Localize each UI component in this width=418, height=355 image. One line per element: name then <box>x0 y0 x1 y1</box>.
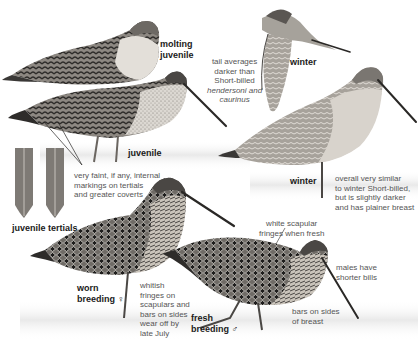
annotation-line: overall very similar <box>335 174 414 184</box>
annotation-line: fringes when fresh <box>259 229 324 239</box>
juvenile-tertials-feathers <box>15 148 64 218</box>
label-juvenile: juvenile <box>128 148 162 159</box>
molting-juvenile-bird <box>2 21 159 85</box>
annotation-line: hendersoni and <box>207 86 262 96</box>
annotation-tertials: very faint, if any, internal markings on… <box>74 171 160 200</box>
annotation-line: and has plainer breast <box>335 203 414 213</box>
annotation-line: to winter Short-billed, <box>335 184 414 194</box>
annotation-worn: whitish fringes on scapulars and bars on… <box>140 281 190 338</box>
annotation-line: whitish <box>140 281 190 291</box>
annotation-line: very faint, if any, internal <box>74 171 160 181</box>
annotation-line: and greater coverts <box>74 190 160 200</box>
label-line: breeding <box>77 294 115 304</box>
annotation-line: Short-billed <box>207 76 262 86</box>
label-line: fresh <box>191 313 238 324</box>
annotation-scapular: white scapular fringes when fresh <box>259 219 324 238</box>
label-line: breeding <box>191 324 229 334</box>
label-line: molting <box>160 39 194 50</box>
annotation-line: of breast <box>292 317 340 327</box>
annotation-line: fringes on <box>140 291 190 301</box>
label-fresh-breeding-male: fresh breeding ♂ <box>191 313 238 335</box>
annotation-males: males have shorter bills <box>336 263 377 282</box>
annotation-line: males have <box>336 263 377 273</box>
annotation-line: scapulars and <box>140 300 190 310</box>
label-winter-flight: winter <box>290 57 317 68</box>
annotation-line: white scapular <box>259 219 324 229</box>
annotation-line: shorter bills <box>336 273 377 283</box>
label-molting-juvenile: molting juvenile <box>160 39 194 61</box>
annotation-line: markings on tertials <box>74 181 160 191</box>
annotation-line: late July <box>140 329 190 339</box>
label-line: worn <box>77 283 124 294</box>
annotation-winter: overall very similar to winter Short-bil… <box>335 174 414 212</box>
annotation-line: tail averages <box>207 57 262 67</box>
annotation-line: but is slightly darker <box>335 193 414 203</box>
annotation-bars: bars on sides of breast <box>292 307 340 326</box>
annotation-line: bars on sides <box>292 307 340 317</box>
annotation-line: wear off by <box>140 319 190 329</box>
male-symbol-icon: ♂ <box>232 324 239 334</box>
annotation-line: caurinus <box>207 95 262 105</box>
label-winter-standing: winter <box>290 176 317 187</box>
label-line: juvenile <box>160 50 194 61</box>
annotation-line: bars on sides <box>140 310 190 320</box>
label-juvenile-tertials: juvenile tertials <box>12 223 78 234</box>
female-symbol-icon: ♀ <box>118 294 125 304</box>
annotation-line: darker than <box>207 67 262 77</box>
annotation-tail: tail averages darker than Short-billed h… <box>207 57 262 105</box>
label-worn-breeding-female: worn breeding ♀ <box>77 283 124 305</box>
